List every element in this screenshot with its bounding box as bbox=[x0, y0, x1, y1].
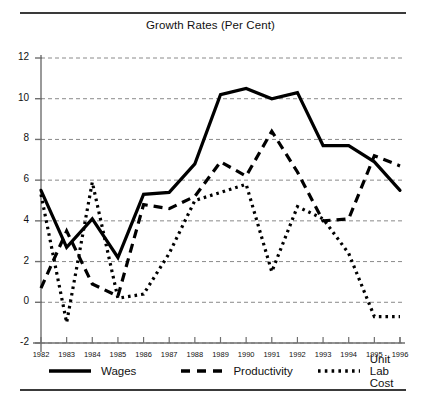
y-tick-label: -2 bbox=[3, 336, 29, 347]
x-tick-label: 1988 bbox=[182, 350, 208, 359]
y-tick-label: 10 bbox=[3, 92, 29, 103]
legend-label-wages: Wages bbox=[101, 365, 136, 377]
legend-item-wages: Wages bbox=[48, 364, 136, 378]
series-line-unit-lab-cost bbox=[41, 182, 400, 322]
solid-line-swatch bbox=[48, 364, 92, 378]
series-lines bbox=[41, 89, 400, 323]
y-tick-label: 12 bbox=[3, 51, 29, 62]
legend-item-productivity: Productivity bbox=[180, 364, 292, 378]
chart-legend: Wages Productivity Unit Lab Cost bbox=[20, 360, 406, 382]
y-tick-label: 2 bbox=[3, 255, 29, 266]
x-tick-label: 1986 bbox=[131, 350, 157, 359]
x-tick-label: 1987 bbox=[156, 350, 182, 359]
x-tick-label: 1983 bbox=[54, 350, 80, 359]
line-chart-plot bbox=[0, 0, 421, 404]
legend-label-unit-lab-cost: Unit Lab Cost bbox=[370, 353, 406, 389]
x-tick-label: 1990 bbox=[233, 350, 259, 359]
series-line-productivity bbox=[41, 131, 400, 296]
y-tick-label: 6 bbox=[3, 173, 29, 184]
x-tick-label: 1985 bbox=[105, 350, 131, 359]
figure: Growth Rates (Per Cent) -2024681012 1982… bbox=[0, 0, 421, 404]
legend-item-unit-lab-cost: Unit Lab Cost bbox=[317, 353, 406, 389]
y-tick-label: 0 bbox=[3, 295, 29, 306]
legend-label-productivity: Productivity bbox=[233, 365, 292, 377]
x-tick-label: 1991 bbox=[259, 350, 285, 359]
y-tick-label: 4 bbox=[3, 214, 29, 225]
dotted-line-swatch bbox=[317, 364, 361, 378]
y-tick-label: 8 bbox=[3, 132, 29, 143]
dashed-line-swatch bbox=[180, 364, 224, 378]
x-tick-label: 1989 bbox=[208, 350, 234, 359]
x-tick-label: 1982 bbox=[28, 350, 54, 359]
series-line-wages bbox=[41, 89, 400, 258]
x-tick-label: 1984 bbox=[79, 350, 105, 359]
x-tick-label: 1992 bbox=[284, 350, 310, 359]
